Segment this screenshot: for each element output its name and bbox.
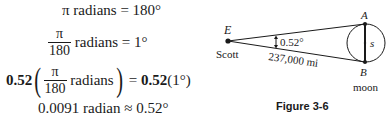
center-dot [364,42,366,44]
point-e-label: E [223,23,232,37]
observer-label: Scott [216,48,239,60]
point-a-dot [363,22,367,26]
point-b-label: B [360,66,367,78]
distance-label: 237,000 mi [268,50,319,69]
arrow-up-icon [274,36,278,40]
moon-label: moon [353,81,379,93]
arc-length-label: s [370,37,374,49]
point-e-dot [225,38,230,43]
angle-label: 0.52° [280,36,304,48]
point-a-label: A [360,9,368,21]
moon-diagram: E Scott 0.52° 237,000 mi A B s moon [0,0,391,128]
point-b-dot [363,60,367,64]
figure-caption: Figure 3-6 [276,100,329,112]
